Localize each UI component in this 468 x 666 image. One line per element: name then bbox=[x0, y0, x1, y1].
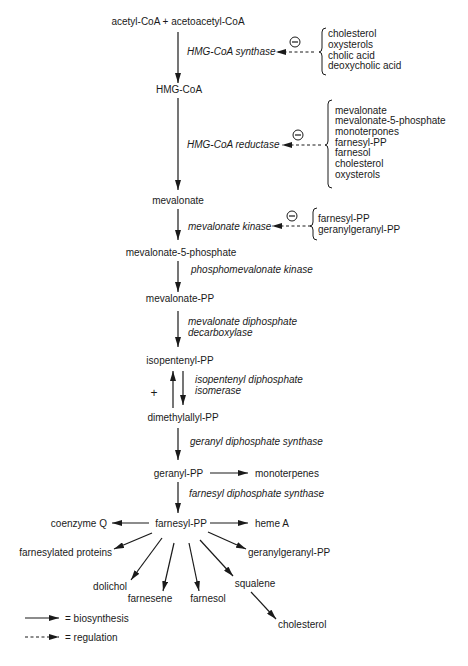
enzyme-isopentenyl-diphosphate-isomerase-line2: isomerase bbox=[195, 385, 242, 396]
enzyme-geranyl-diphosphate-synthase: geranyl diphosphate synthase bbox=[190, 436, 323, 447]
regulator-item: farnesol bbox=[335, 147, 371, 158]
enzyme-isopentenyl-diphosphate-isomerase-line1: isopentenyl diphosphate bbox=[195, 374, 303, 385]
activation-plus-icon: + bbox=[150, 386, 157, 400]
regulator-item: farnesyl-PP bbox=[335, 137, 387, 148]
enzyme-mevalonate-diphosphate-decarboxylase-line2: decarboxylase bbox=[188, 327, 253, 338]
regulator-item: monoterpones bbox=[335, 126, 399, 137]
node-farnesene: farnesene bbox=[128, 593, 173, 604]
brace-regulators-3 bbox=[310, 208, 317, 240]
enzyme-hmg-coa-synthase: HMG-CoA synthase bbox=[187, 46, 276, 57]
arrow-to-farnesylated-proteins bbox=[114, 533, 152, 549]
regulator-list-hmg-coa-reductase: mevalonate mevalonate-5-phosphate monote… bbox=[335, 105, 446, 180]
node-geranyl-pp: geranyl-PP bbox=[154, 468, 204, 479]
regulator-item: mevalonate bbox=[335, 105, 387, 116]
node-dimethylallyl-pp: dimethylallyl-PP bbox=[147, 412, 218, 423]
node-squalene: squalene bbox=[235, 578, 276, 589]
regulator-item: oxysterols bbox=[335, 169, 380, 180]
node-farnesyl-pp: farnesyl-PP bbox=[155, 518, 207, 529]
legend-label-biosynthesis: = biosynthesis bbox=[65, 613, 129, 624]
node-monoterpenes: monoterpenes bbox=[255, 468, 319, 479]
node-isopentenyl-pp: isopentenyl-PP bbox=[146, 355, 214, 366]
arrow-to-farnesol bbox=[189, 543, 199, 591]
enzyme-hmg-coa-reductase: HMG-CoA reductase bbox=[187, 139, 280, 150]
arrow-to-dolichol bbox=[131, 538, 162, 580]
node-dolichol: dolichol bbox=[93, 581, 127, 592]
regulator-item: mevalonate-5-phosphate bbox=[335, 115, 446, 126]
regulator-item: cholesterol bbox=[328, 28, 376, 39]
arrow-to-geranylgeranyl-pp bbox=[208, 532, 246, 549]
regulator-item: farnesyl-PP bbox=[318, 213, 370, 224]
node-mevalonate: mevalonate bbox=[152, 195, 204, 206]
inhibition-minus-icon bbox=[290, 37, 300, 47]
regulator-list-hmg-coa-synthase: cholesterol oxysterols cholic acid deoxy… bbox=[328, 28, 401, 71]
regulator-item: cholesterol bbox=[335, 158, 383, 169]
node-substrates: acetyl-CoA + acetoacetyl-CoA bbox=[111, 16, 244, 27]
enzyme-phosphomevalonate-kinase: phosphomevalonate kinase bbox=[190, 264, 313, 275]
regulator-item: oxysterols bbox=[328, 39, 373, 50]
node-farnesol: farnesol bbox=[190, 593, 226, 604]
regulator-item: geranylgeranyl-PP bbox=[318, 224, 401, 235]
node-cholesterol: cholesterol bbox=[278, 619, 326, 630]
node-geranylgeranyl-pp: geranylgeranyl-PP bbox=[248, 547, 331, 558]
legend-label-regulation: = regulation bbox=[65, 632, 118, 643]
arrow-to-farnesene bbox=[163, 543, 174, 591]
node-mevalonate-pp: mevalonate-PP bbox=[146, 293, 215, 304]
node-farnesylated-proteins: farnesylated proteins bbox=[19, 547, 112, 558]
inhibition-minus-icon bbox=[293, 130, 303, 140]
node-heme-a: heme A bbox=[255, 518, 289, 529]
node-hmg-coa: HMG-CoA bbox=[156, 84, 202, 95]
enzyme-farnesyl-diphosphate-synthase: farnesyl diphosphate synthase bbox=[189, 488, 325, 499]
brace-regulators-2 bbox=[325, 100, 332, 188]
inhibition-minus-icon bbox=[287, 211, 297, 221]
arrow-squalene-to-cholesterol bbox=[251, 592, 276, 619]
arrow-to-squalene bbox=[200, 540, 233, 576]
regulator-item: cholic acid bbox=[328, 50, 375, 61]
enzyme-mevalonate-diphosphate-decarboxylase-line1: mevalonate diphosphate bbox=[188, 316, 297, 327]
legend: = biosynthesis = regulation bbox=[25, 613, 129, 643]
regulator-list-mevalonate-kinase: farnesyl-PP geranylgeranyl-PP bbox=[318, 213, 401, 235]
enzyme-mevalonate-kinase: mevalonate kinase bbox=[188, 221, 272, 232]
regulator-item: deoxycholic acid bbox=[328, 60, 401, 71]
node-coenzyme-q: coenzyme Q bbox=[51, 518, 107, 529]
node-mevalonate-5-phosphate: mevalonate-5-phosphate bbox=[126, 247, 237, 258]
brace-regulators-1 bbox=[319, 28, 326, 75]
mevalonate-pathway-diagram: acetyl-CoA + acetoacetyl-CoA HMG-CoA syn… bbox=[0, 0, 468, 666]
